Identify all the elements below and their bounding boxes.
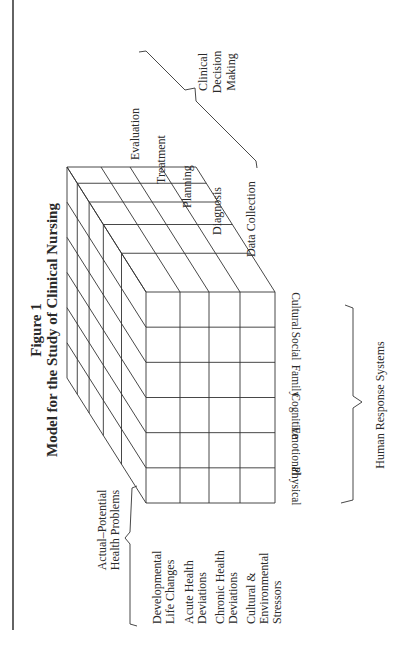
figure-title: Model for the Study of Clinical Nursing <box>44 203 60 457</box>
svg-text:Cultural &: Cultural & <box>244 572 258 624</box>
svg-text:Making: Making <box>224 53 238 90</box>
svg-text:Decision: Decision <box>210 51 224 94</box>
human-response-system-labels: Physical Emotional Cognitive Family Soci… <box>289 292 302 505</box>
svg-text:Developmental: Developmental <box>150 550 164 624</box>
health-problem-items: Developmental Life Changes Acute Health … <box>150 550 284 624</box>
svg-text:Health Problems: Health Problems <box>108 490 122 571</box>
svg-text:Environmental: Environmental <box>257 552 271 624</box>
nursing-model-figure: Figure 1 Model for the Study of Clinical… <box>0 0 403 662</box>
svg-text:Chronic Health: Chronic Health <box>213 550 227 624</box>
stage-diagnosis: Diagnosis <box>210 187 224 235</box>
svg-text:Life Changes: Life Changes <box>163 559 177 624</box>
system-family: Family <box>289 365 302 398</box>
svg-text:Clinical: Clinical <box>196 52 210 91</box>
stage-evaluation: Evaluation <box>128 108 142 160</box>
svg-text:Acute Health: Acute Health <box>182 560 196 624</box>
svg-text:Stressors: Stressors <box>270 580 284 624</box>
figure-caption: Figure 1 Model for the Study of Clinical… <box>28 203 60 457</box>
clinical-decision-label: Clinical Decision Making <box>196 51 238 94</box>
stage-treatment: Treatment <box>154 134 168 184</box>
figure-number: Figure 1 <box>28 303 44 356</box>
health-problems-label: Actual–Potential Health Problems <box>95 489 122 570</box>
svg-text:Deviations: Deviations <box>226 572 240 624</box>
svg-text:Actual–Potential: Actual–Potential <box>95 489 109 570</box>
system-social: Social <box>290 332 302 361</box>
health-problems-bracket <box>125 486 137 626</box>
document-page: Figure 1 Model for the Study of Clinical… <box>0 0 403 662</box>
svg-text:Deviations: Deviations <box>195 572 209 624</box>
human-response-systems-label: Human Response Systems <box>373 341 387 469</box>
system-cognitive: Cognitive <box>289 393 302 438</box>
stage-planning: Planning <box>180 165 194 208</box>
stage-data-collection: Data Collection <box>244 181 258 257</box>
human-response-bracket <box>341 305 362 503</box>
system-cultural: Cultural <box>290 292 302 330</box>
